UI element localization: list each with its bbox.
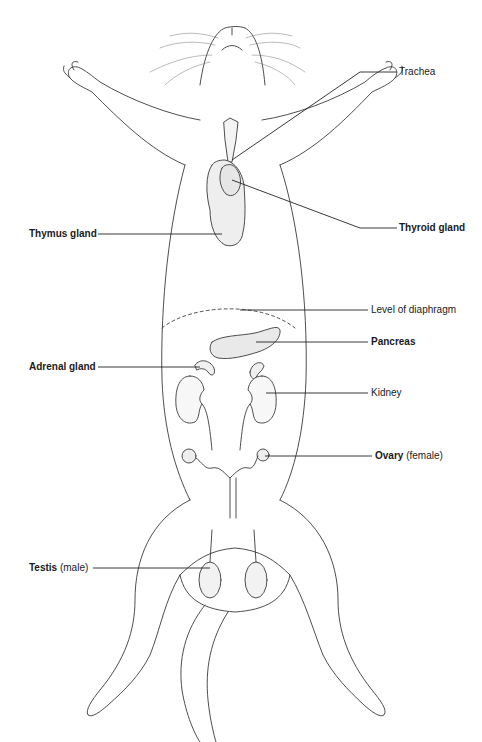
kidney-left xyxy=(176,376,204,423)
tail xyxy=(181,605,205,742)
testis-right xyxy=(245,562,267,598)
label-trachea: Trachea xyxy=(399,66,435,78)
testis-left xyxy=(199,562,221,598)
label-kidney: Kidney xyxy=(371,387,402,399)
label-adrenal-gland: Adrenal gland xyxy=(29,361,96,373)
label-level-of-diaphragm: Level of diaphragm xyxy=(371,304,456,316)
left-forelimb xyxy=(68,67,200,165)
left-hindlimb xyxy=(87,500,190,716)
trachea-shape xyxy=(224,118,238,162)
leader-thyroid xyxy=(232,180,397,228)
rat-endocrine-diagram: Trachea Thyroid gland Thymus gland Level… xyxy=(0,0,482,742)
label-thyroid-gland: Thyroid gland xyxy=(399,222,465,234)
right-hindlimb xyxy=(280,500,385,716)
label-pancreas: Pancreas xyxy=(371,336,415,348)
adrenal-left xyxy=(195,361,215,375)
kidney-right xyxy=(248,376,276,423)
label-testis: Testis (male) xyxy=(29,562,88,574)
ovary-left xyxy=(182,449,196,463)
right-forelimb xyxy=(262,67,397,165)
diaphragm-line xyxy=(162,309,295,328)
leader-trachea xyxy=(232,72,397,160)
ovary-right xyxy=(257,449,269,461)
body-right-side xyxy=(280,165,306,500)
label-ovary: Ovary (female) xyxy=(375,450,443,462)
pancreas-shape xyxy=(210,327,280,358)
label-thymus-gland: Thymus gland xyxy=(29,228,97,240)
